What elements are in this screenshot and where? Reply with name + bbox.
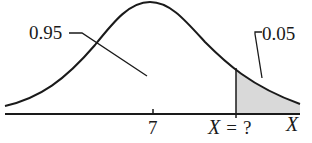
right-tail-shaded-region (236, 69, 300, 115)
critical-value-eq: = (226, 117, 237, 138)
left-area-leader-line (69, 33, 147, 76)
right-tail-leader-line (255, 32, 262, 78)
left-area-label: 0.95 (29, 22, 62, 43)
critical-value-var: X (207, 116, 221, 138)
critical-value-question: ? (243, 117, 251, 138)
critical-value-label: X = ? (207, 116, 251, 138)
normal-curve-diagram: 0.95 0.05 7 X = ? X (0, 0, 312, 143)
axis-label: X (285, 113, 299, 135)
mean-label: 7 (148, 117, 158, 138)
right-tail-label: 0.05 (262, 23, 295, 44)
